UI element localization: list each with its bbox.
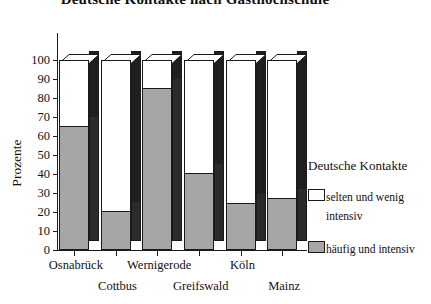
bar-front-face[interactable] xyxy=(101,60,131,250)
bar-front-face[interactable] xyxy=(184,60,214,250)
x-axis-tick-mark xyxy=(241,251,242,256)
y-axis-tick-label: 90 xyxy=(38,73,54,86)
legend-swatch-white-icon xyxy=(308,189,325,201)
x-axis-category-label: Mainz xyxy=(268,279,300,294)
bar-front-face[interactable] xyxy=(142,60,172,250)
bar-segment-haeufig-und-intensiv[interactable] xyxy=(60,126,88,250)
bar-front-face[interactable] xyxy=(59,60,89,250)
bar-side-face xyxy=(297,51,307,241)
bar-group[interactable] xyxy=(101,51,141,250)
bar-side-face-gray-segment xyxy=(257,194,265,240)
bar-side-face xyxy=(89,51,99,241)
bar-group[interactable] xyxy=(267,51,307,250)
legend-label-line-1: häufig und intensiv xyxy=(326,243,415,255)
legend-item-label: selten und wenig intensiv xyxy=(325,188,404,226)
bar-side-face-gray-segment xyxy=(173,79,181,241)
legend-item-selten-und-wenig-intensiv[interactable]: selten und wenig intensiv xyxy=(308,188,431,226)
y-axis-tick-label: 30 xyxy=(38,187,54,200)
bar-side-face-gray-segment xyxy=(215,164,223,240)
y-axis-tick-label: 50 xyxy=(38,149,54,162)
bar-side-face-gray-segment xyxy=(132,202,140,240)
bar-segment-haeufig-und-intensiv[interactable] xyxy=(143,88,171,250)
x-axis-category-label: Köln xyxy=(230,258,255,273)
bar-side-face xyxy=(256,51,266,241)
x-axis-category-label: Osnabrück xyxy=(49,258,103,273)
x-axis-tick-mark xyxy=(74,251,75,256)
bar-segment-haeufig-und-intensiv[interactable] xyxy=(227,203,255,249)
y-axis-tick-label: 10 xyxy=(38,225,54,238)
y-axis-tick-label: 100 xyxy=(31,54,53,67)
bar-segment-haeufig-und-intensiv[interactable] xyxy=(185,173,213,249)
y-axis-tick-label: 80 xyxy=(38,92,54,105)
legend-title: Deutsche Kontakte xyxy=(308,158,431,174)
legend-swatch-gray-icon xyxy=(308,241,325,253)
bar-group[interactable] xyxy=(184,51,224,250)
bar-side-face xyxy=(214,51,224,241)
bar-segment-haeufig-und-intensiv[interactable] xyxy=(268,198,296,249)
x-axis-tick-mark xyxy=(199,251,200,256)
x-axis-tick-mark xyxy=(157,251,158,256)
bar-group[interactable] xyxy=(59,51,99,250)
x-axis-category-label: Cottbus xyxy=(98,279,137,294)
chart-legend: Deutsche Kontakte selten und wenig inten… xyxy=(308,158,431,273)
x-axis-tick-mark xyxy=(282,251,283,256)
y-axis-tick-label: 40 xyxy=(38,168,54,181)
x-axis-category-label: Wernigerode xyxy=(127,258,191,273)
chart-title: Deutsche Kontakte nach Gasthochschule xyxy=(0,0,390,8)
x-axis-line xyxy=(57,250,307,251)
x-axis-category-label: Greifswald xyxy=(173,279,229,294)
bar-group[interactable] xyxy=(226,51,266,250)
bar-front-face[interactable] xyxy=(226,60,256,250)
bar-side-face xyxy=(172,51,182,241)
y-axis-tick-label: 20 xyxy=(38,206,54,219)
y-axis-tick-label: 60 xyxy=(38,130,54,143)
legend-label-line-1: selten und wenig xyxy=(326,191,404,203)
bar-front-face[interactable] xyxy=(267,60,297,250)
y-axis-tick-label: 0 xyxy=(44,244,53,257)
y-axis-tick-label: 70 xyxy=(38,111,54,124)
legend-label-line-2: intensiv xyxy=(326,210,362,222)
legend-item-haeufig-und-intensiv[interactable]: häufig und intensiv xyxy=(308,240,431,259)
bar-group[interactable] xyxy=(142,51,182,250)
x-axis-tick-mark xyxy=(116,251,117,256)
bar-side-face-gray-segment xyxy=(90,117,98,241)
bar-segment-haeufig-und-intensiv[interactable] xyxy=(102,211,130,249)
legend-item-label: häufig und intensiv xyxy=(325,240,415,259)
bar-side-face-gray-segment xyxy=(298,189,306,240)
bar-side-face xyxy=(131,51,141,241)
